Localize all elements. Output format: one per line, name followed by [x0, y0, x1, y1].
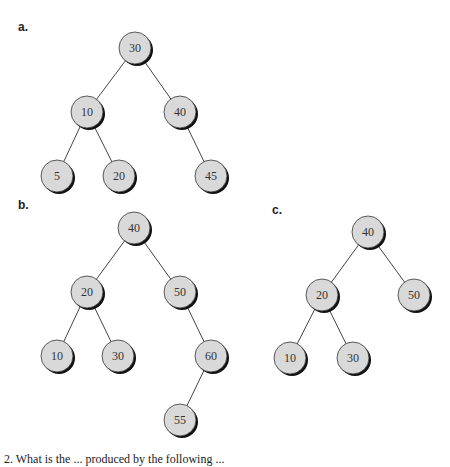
svg-text:55: 55 — [174, 413, 186, 427]
tree-node-40: 40 — [118, 212, 152, 246]
tree-node-45: 45 — [195, 160, 229, 194]
tree-node-10: 10 — [71, 96, 105, 130]
tree-node-20: 20 — [103, 160, 137, 194]
tree-a: 30104052045 — [41, 32, 229, 194]
tree-node-10: 10 — [274, 342, 308, 376]
tree-node-30: 30 — [337, 342, 371, 376]
svg-text:50: 50 — [174, 285, 186, 299]
tree-node-10: 10 — [41, 340, 75, 374]
tree-b: 40205010306055 — [41, 212, 229, 438]
svg-text:30: 30 — [347, 351, 359, 365]
tree-node-5: 5 — [41, 160, 75, 194]
svg-text:10: 10 — [81, 105, 93, 119]
svg-text:30: 30 — [129, 41, 141, 55]
tree-node-60: 60 — [195, 340, 229, 374]
svg-text:40: 40 — [362, 225, 374, 239]
tree-node-30: 30 — [119, 32, 153, 66]
tree-label: a. — [18, 20, 28, 34]
tree-node-20: 20 — [306, 279, 340, 313]
tree-node-50: 50 — [398, 279, 432, 313]
svg-text:60: 60 — [205, 349, 217, 363]
tree-c: 4020501030 — [274, 216, 432, 376]
tree-node-55: 55 — [164, 404, 198, 438]
svg-text:20: 20 — [81, 285, 93, 299]
tree-node-20: 20 — [71, 276, 105, 310]
svg-text:40: 40 — [174, 105, 186, 119]
svg-text:20: 20 — [316, 288, 328, 302]
svg-text:50: 50 — [408, 288, 420, 302]
svg-text:30: 30 — [112, 349, 124, 363]
svg-text:5: 5 — [54, 169, 60, 183]
svg-text:10: 10 — [51, 349, 63, 363]
svg-text:40: 40 — [128, 221, 140, 235]
tree-node-30: 30 — [102, 340, 136, 374]
tree-node-50: 50 — [164, 276, 198, 310]
tree-node-40: 40 — [352, 216, 386, 250]
svg-text:20: 20 — [113, 169, 125, 183]
tree-label: c. — [272, 203, 282, 217]
question-caption: 2. What is the ... produced by the follo… — [4, 452, 224, 467]
tree-label: b. — [18, 198, 29, 212]
svg-text:45: 45 — [205, 169, 217, 183]
svg-text:10: 10 — [284, 351, 296, 365]
tree-node-40: 40 — [164, 96, 198, 130]
